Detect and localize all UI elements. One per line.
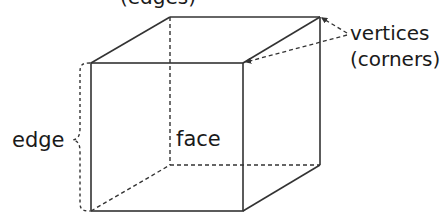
visible-edges <box>91 17 320 211</box>
pointer-back-top-right <box>322 18 347 33</box>
edge-label: edge <box>12 128 65 152</box>
edge-bottom-right-depth <box>243 165 320 211</box>
hidden-edge-bottom-depth <box>91 165 170 211</box>
edge-top-left-depth <box>91 17 170 63</box>
cube-diagram: (edges) edge face vertices (corners) <box>0 0 446 223</box>
face-label: face <box>176 127 221 151</box>
edge-brace <box>73 63 90 211</box>
top-clipped-label: (edges) <box>120 0 196 9</box>
edge-top-right-depth <box>243 17 320 63</box>
corners-label: (corners) <box>350 47 440 71</box>
pointer-front-top-right <box>246 35 347 62</box>
vertex-pointers <box>246 18 347 62</box>
hidden-edges <box>91 17 320 211</box>
vertices-label: vertices <box>350 21 429 45</box>
